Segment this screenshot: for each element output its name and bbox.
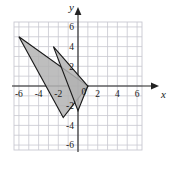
x-tick-label: -2 xyxy=(54,89,62,99)
y-tick-label: -2 xyxy=(66,101,74,111)
x-tick-label: 6 xyxy=(135,89,140,99)
plot-canvas: -6-4-2246642-2-4-60 xy xyxy=(0,0,171,171)
x-tick-label: -4 xyxy=(35,89,43,99)
x-tick-label: 4 xyxy=(115,89,120,99)
x-axis-arrow-icon xyxy=(151,83,159,90)
y-tick-label: -6 xyxy=(66,140,74,150)
coordinate-plane-figure: -6-4-2246642-2-4-60 xy xyxy=(0,0,171,171)
y-tick-label: -4 xyxy=(66,121,74,131)
x-axis-label: x xyxy=(160,88,166,100)
y-tick-label: 2 xyxy=(69,62,74,72)
origin-label: 0 xyxy=(82,87,87,97)
y-axis-arrow-icon xyxy=(75,7,82,15)
x-tick-label: -6 xyxy=(15,89,23,99)
x-tick-label: 2 xyxy=(95,89,100,99)
y-axis-label: y xyxy=(68,1,74,13)
y-tick-label: 6 xyxy=(69,22,74,32)
y-tick-label: 4 xyxy=(69,42,74,52)
